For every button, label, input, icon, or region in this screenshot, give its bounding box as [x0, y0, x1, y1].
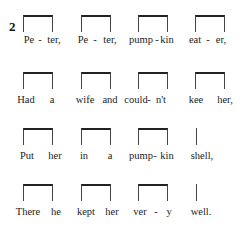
- lyric-syllable: y: [166, 206, 171, 217]
- lyric-syllable: pump: [129, 150, 153, 161]
- lyric-syllable: her: [105, 206, 118, 217]
- lyric-syllable: ver: [133, 206, 146, 217]
- lyric-syllable: wife: [76, 94, 95, 105]
- lyric-syllable: in: [80, 150, 88, 161]
- quarter-note-icon: [196, 128, 197, 145]
- eighth-note-pair-icon: [81, 72, 111, 89]
- lyric-syllable: ter,: [47, 34, 60, 45]
- eighth-note-pair-icon: [23, 128, 53, 145]
- lyric-syllable: er,: [216, 34, 226, 45]
- rhythm-notation-page: 2 Pe-ter,Pe-ter,pump-kineat-er,Hadawifea…: [0, 0, 247, 228]
- lyric-syllable: ter,: [103, 34, 116, 45]
- lyric-syllable: Put: [20, 150, 34, 161]
- eighth-note-pair-icon: [138, 128, 168, 145]
- eighth-note-pair-icon: [23, 15, 53, 32]
- eighth-note-pair-icon: [23, 184, 53, 201]
- verse-number: 2: [9, 19, 16, 35]
- eighth-note-pair-icon: [138, 184, 168, 201]
- eighth-note-pair-icon: [23, 72, 53, 89]
- lyric-syllable: well.: [191, 206, 212, 217]
- eighth-note-pair-icon: [138, 15, 168, 32]
- lyric-syllable: shell,: [191, 150, 213, 161]
- lyric-syllable: kee: [189, 94, 204, 105]
- lyric-syllable: he: [51, 206, 61, 217]
- lyric-syllable: her,: [217, 94, 233, 105]
- lyric-syllable: -: [153, 150, 157, 161]
- lyric-syllable: kin: [160, 150, 173, 161]
- lyric-syllable: -: [38, 34, 42, 45]
- eighth-note-pair-icon: [195, 72, 225, 89]
- lyric-syllable: -: [147, 94, 151, 105]
- lyric-syllable: her: [48, 150, 61, 161]
- eighth-note-pair-icon: [81, 15, 111, 32]
- lyric-syllable: Pe: [78, 34, 89, 45]
- lyric-syllable: Pe: [24, 34, 35, 45]
- lyric-syllable: There: [16, 206, 40, 217]
- eighth-note-pair-icon: [81, 128, 111, 145]
- lyric-syllable: a: [108, 150, 113, 161]
- eighth-note-pair-icon: [138, 72, 168, 89]
- lyric-syllable: -: [154, 206, 158, 217]
- lyric-syllable: -: [206, 34, 210, 45]
- eighth-note-pair-icon: [81, 184, 111, 201]
- lyric-syllable: n't: [156, 94, 166, 105]
- lyric-syllable: a: [50, 94, 55, 105]
- lyric-syllable: pump: [129, 34, 153, 45]
- lyric-syllable: -: [93, 34, 97, 45]
- lyric-syllable: kept: [77, 206, 95, 217]
- eighth-note-pair-icon: [195, 15, 225, 32]
- quarter-note-icon: [196, 184, 197, 201]
- lyric-syllable: -: [155, 34, 159, 45]
- lyric-syllable: eat: [189, 34, 201, 45]
- lyric-syllable: could: [124, 94, 147, 105]
- lyric-syllable: kin: [160, 34, 173, 45]
- lyric-syllable: Had: [17, 94, 35, 105]
- lyric-syllable: and: [102, 94, 117, 105]
